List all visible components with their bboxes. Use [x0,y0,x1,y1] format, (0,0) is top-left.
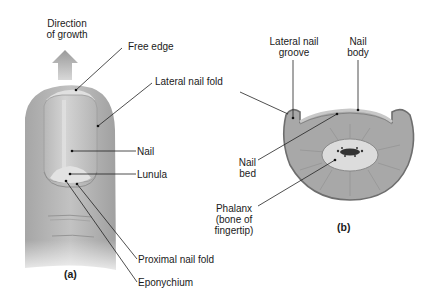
label-lateral-nail-groove-line1: Lateral nail [266,36,322,47]
label-phalanx-line2: (bone of [210,214,258,225]
label-nail: Nail [137,146,154,157]
label-lateral-nail-groove: Lateral nail groove [266,36,322,58]
panel-label-b: (b) [337,221,350,233]
finger-illustration [25,85,116,275]
label-nail-bed: Nail bed [228,157,256,179]
label-phalanx: Phalanx (bone of fingertip) [210,203,258,236]
label-eponychium: Eponychium [138,277,193,288]
label-nail-bed-line2: bed [228,168,256,179]
label-free-edge: Free edge [128,41,174,52]
label-nail-body-line2: body [342,47,374,58]
label-nail-body-line1: Nail [342,36,374,47]
label-direction-line1: Direction [44,18,90,29]
label-lateral-nail-fold: Lateral nail fold [155,76,223,87]
label-direction-of-growth: Direction of growth [44,18,90,40]
label-direction-line2: of growth [44,29,90,40]
label-nail-body: Nail body [342,36,374,58]
label-nail-bed-line1: Nail [228,157,256,168]
nail-cross-section [284,110,414,200]
label-phalanx-line3: fingertip) [210,225,258,236]
growth-arrow-icon [52,50,78,80]
label-phalanx-line1: Phalanx [210,203,258,214]
label-lateral-nail-groove-line2: groove [266,47,322,58]
label-proximal-nail-fold: Proximal nail fold [138,254,214,265]
panel-label-a: (a) [64,268,77,280]
label-lunula: Lunula [137,169,167,180]
